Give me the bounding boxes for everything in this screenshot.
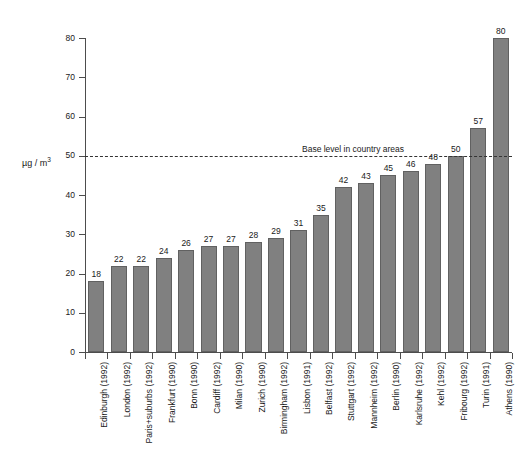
y-axis-tick-label-text: 80	[49, 34, 75, 43]
x-axis-category-label: Belfast (1992)	[325, 362, 334, 415]
y-axis-tick-label-text: 10	[49, 308, 75, 317]
x-axis-tick	[377, 353, 378, 359]
x-axis-category-label: Cardiff (1992)	[213, 362, 222, 414]
x-axis-category-label: London (1992)	[123, 362, 132, 417]
x-axis-line	[85, 352, 512, 353]
x-axis-category-label: Turin (1991)	[482, 362, 491, 408]
x-axis-tick	[400, 353, 401, 359]
x-axis-category-label: Zurich (1990)	[258, 362, 267, 413]
x-axis-tick	[220, 353, 221, 359]
x-axis-tick	[512, 353, 513, 359]
x-axis-category-label: Fribourg (1992)	[460, 362, 469, 421]
bar	[425, 164, 441, 352]
x-axis-category-label: Stuttgart (1992)	[347, 362, 356, 421]
y-axis-tick-label-text: 30	[49, 230, 75, 239]
bar	[335, 187, 351, 352]
x-axis-tick	[107, 353, 108, 359]
x-axis-category-label: Frankfurt (1990)	[168, 362, 177, 423]
bar	[111, 266, 127, 352]
bar	[403, 171, 419, 352]
x-axis-category-label: Milan (1990)	[235, 362, 244, 409]
y-axis-tick-label: 70	[47, 73, 75, 82]
bar	[156, 258, 172, 352]
bar-value-label: 50	[442, 145, 470, 154]
x-axis-category-label: Bonn (1990)	[190, 362, 199, 409]
base-level-reference-line	[85, 156, 512, 157]
x-axis-tick	[355, 353, 356, 359]
y-axis-tick-label: 10	[47, 308, 75, 317]
y-axis-tick-label-text: 40	[49, 191, 75, 200]
y-axis-tick-label: 30	[47, 230, 75, 239]
x-axis-category-label: Berlin (1990)	[392, 362, 401, 411]
x-axis-tick	[467, 353, 468, 359]
bar-value-label: 18	[82, 270, 110, 279]
bar	[178, 250, 194, 352]
y-axis-tick-label-text: 70	[49, 73, 75, 82]
bar-value-label: 57	[464, 117, 492, 126]
bar	[493, 38, 509, 352]
x-axis-category-label: Lisbon (1991)	[303, 362, 312, 414]
bar	[223, 246, 239, 352]
x-axis-tick	[197, 353, 198, 359]
y-axis-tick-label: 80	[47, 34, 75, 43]
bar	[380, 175, 396, 352]
x-axis-category-label: Kehl (1992)	[437, 362, 446, 406]
y-axis-tick-label: 40	[47, 191, 75, 200]
x-axis-tick	[130, 353, 131, 359]
x-axis-tick	[152, 353, 153, 359]
x-axis-category-label: Karlsruhe (1992)	[415, 362, 424, 425]
bar	[133, 266, 149, 352]
x-axis-tick	[287, 353, 288, 359]
bar-chart: 01020304050607080 µg / m3 18222224262727…	[0, 0, 523, 467]
bar	[358, 183, 374, 352]
bar-value-label: 31	[284, 219, 312, 228]
x-axis-category-label: Birmingham (1992)	[280, 362, 289, 434]
y-axis-tick-label: 50	[47, 151, 75, 160]
bar-value-label: 43	[352, 172, 380, 181]
x-axis-tick	[422, 353, 423, 359]
y-axis-tick-label: 0	[47, 348, 75, 357]
y-axis-title: µg / m3	[22, 155, 51, 168]
bar-value-label: 22	[127, 255, 155, 264]
x-axis-tick	[490, 353, 491, 359]
x-axis-tick	[310, 353, 311, 359]
x-axis-tick	[85, 353, 86, 359]
bar-value-label: 48	[419, 153, 447, 162]
plot-area: 18222224262727282931354243454648505780	[85, 38, 512, 352]
y-axis-tick-label-text: 60	[49, 112, 75, 121]
x-axis-tick	[175, 353, 176, 359]
bar	[201, 246, 217, 352]
bar	[448, 156, 464, 352]
bar-value-label: 29	[262, 227, 290, 236]
y-axis-tick-label: 20	[47, 269, 75, 278]
x-axis-category-label: Paris+suburbs (1992)	[145, 362, 154, 444]
x-axis-category-label: Mannheim (1992)	[370, 362, 379, 429]
y-axis-tick-label-text: 0	[49, 348, 75, 357]
y-axis-tick-label: 60	[47, 112, 75, 121]
x-axis-tick	[332, 353, 333, 359]
y-axis-tick-label-text: 50	[49, 151, 75, 160]
bar	[88, 281, 104, 352]
bar	[313, 215, 329, 352]
bar	[245, 242, 261, 352]
x-axis-tick	[265, 353, 266, 359]
bar	[290, 230, 306, 352]
bar	[470, 128, 486, 352]
y-axis-title-text: µg / m	[22, 158, 47, 168]
bar-value-label: 24	[150, 247, 178, 256]
bar-value-label: 35	[307, 204, 335, 213]
bar-value-label: 80	[487, 27, 515, 36]
y-axis-title-exponent: 3	[47, 156, 51, 163]
bar	[268, 238, 284, 352]
x-axis-tick	[242, 353, 243, 359]
x-axis-tick	[445, 353, 446, 359]
base-level-reference-label: Base level in country areas	[300, 145, 406, 154]
y-axis-tick-label-text: 20	[49, 269, 75, 278]
x-axis-category-label: Edinburgh (1992)	[100, 362, 109, 428]
x-axis-category-label: Athens (1990)	[505, 362, 514, 415]
bar-value-label: 46	[397, 160, 425, 169]
